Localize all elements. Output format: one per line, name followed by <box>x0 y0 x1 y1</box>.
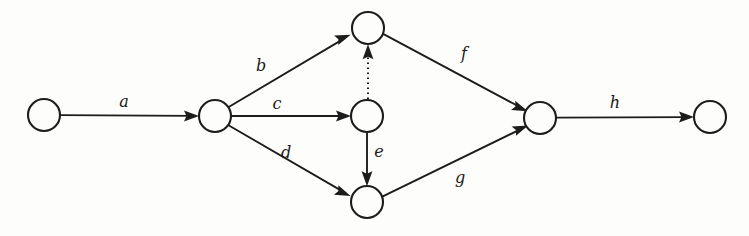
edge-label-d: d <box>281 143 291 162</box>
merge-node[interactable] <box>524 102 556 134</box>
edge-label-g: g <box>455 168 465 187</box>
edge-b <box>228 35 350 108</box>
edge-a-line <box>60 115 192 116</box>
upper-node[interactable] <box>352 12 384 44</box>
edge-label-c: c <box>273 94 282 113</box>
edge-g-line <box>382 129 522 197</box>
edge-b-line <box>228 38 344 107</box>
edge-label-a: a <box>119 92 129 111</box>
branch-node[interactable] <box>199 100 231 132</box>
edge-label-e: e <box>374 142 383 161</box>
edge-label-f: f <box>460 44 470 63</box>
directed-graph: a b c d e f g h <box>0 0 749 236</box>
edge-f-line <box>382 33 521 108</box>
edge-h <box>556 112 694 123</box>
lower-node[interactable] <box>351 186 383 218</box>
edge-h-line <box>556 117 687 118</box>
edge-c <box>231 111 351 122</box>
edge-label-b: b <box>256 56 266 75</box>
diagram-canvas: a b c d e f g h <box>0 0 749 236</box>
edge-a <box>60 111 199 122</box>
edge-dotted-arrowhead <box>363 44 374 59</box>
edge-dotted <box>363 44 374 99</box>
source-node[interactable] <box>28 99 60 131</box>
middle-node[interactable] <box>351 100 383 132</box>
edge-e <box>362 132 373 186</box>
edge-label-h: h <box>610 93 620 112</box>
sink-node[interactable] <box>694 101 726 133</box>
edge-f <box>382 33 528 111</box>
